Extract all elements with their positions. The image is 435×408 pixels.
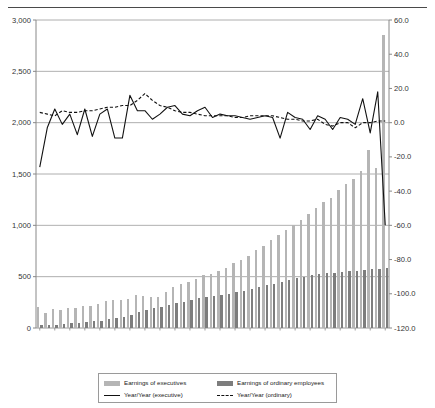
svg-text:-80.0: -80.0 (394, 255, 411, 264)
svg-text:2,000: 2,000 (12, 118, 31, 127)
legend-row-lines: Year/Year (executive) Year/Year (ordinar… (104, 389, 331, 401)
svg-text:-120.0: -120.0 (394, 324, 416, 332)
svg-text:500: 500 (18, 272, 31, 281)
chart-legend: Earnings of executives Earnings of ordin… (98, 373, 337, 403)
svg-text:40.0: 40.0 (394, 50, 409, 59)
legend-item-yoy-executive[interactable]: Year/Year (executive) (104, 389, 217, 401)
legend-label-yoy-ordinary: Year/Year (ordinary) (237, 389, 292, 401)
legend-item-earnings-ordinary[interactable]: Earnings of ordinary employees (217, 377, 324, 389)
legend-swatch-bar-dark-icon (217, 381, 233, 386)
svg-text:-40.0: -40.0 (394, 187, 411, 196)
legend-item-earnings-executives[interactable]: Earnings of executives (104, 377, 217, 389)
svg-text:1,000: 1,000 (12, 221, 31, 230)
legend-label-earnings-executives: Earnings of executives (124, 377, 186, 389)
legend-label-yoy-executive: Year/Year (executive) (124, 389, 183, 401)
legend-label-earnings-ordinary: Earnings of ordinary employees (237, 377, 324, 389)
svg-text:-60.0: -60.0 (394, 221, 411, 230)
legend-item-yoy-ordinary[interactable]: Year/Year (ordinary) (217, 389, 292, 401)
legend-swatch-line-solid-icon (104, 395, 120, 396)
legend-swatch-bar-light-icon (104, 381, 120, 386)
title-divider (8, 7, 427, 8)
svg-text:20.0: 20.0 (394, 84, 409, 93)
svg-text:0.0: 0.0 (394, 118, 405, 127)
svg-text:-100.0: -100.0 (394, 289, 416, 298)
svg-text:60.0: 60.0 (394, 16, 409, 25)
chart-svg: 05001,0001,5002,0002,5003,000-120.0-100.… (0, 12, 435, 332)
svg-text:-20.0: -20.0 (394, 152, 411, 161)
svg-text:1,500: 1,500 (12, 170, 31, 179)
svg-text:0: 0 (27, 324, 31, 332)
svg-text:2,500: 2,500 (12, 67, 31, 76)
legend-swatch-line-dash-icon (217, 395, 233, 396)
chart-page: 05001,0001,5002,0002,5003,000-120.0-100.… (0, 0, 435, 408)
chart-plot-area: 05001,0001,5002,0002,5003,000-120.0-100.… (0, 12, 435, 332)
legend-row-bars: Earnings of executives Earnings of ordin… (104, 377, 331, 389)
chart-title (8, 0, 427, 7)
svg-text:3,000: 3,000 (12, 16, 31, 25)
